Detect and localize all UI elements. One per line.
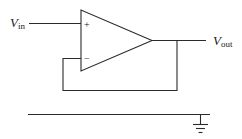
opamp-triangle bbox=[81, 10, 152, 71]
noninverting-sign: + bbox=[84, 19, 90, 30]
ground-icon bbox=[193, 115, 208, 133]
circuit-diagram: Vin + − Vout bbox=[0, 0, 242, 139]
vin-label: Vin bbox=[10, 15, 25, 31]
vout-label: Vout bbox=[213, 33, 233, 49]
feedback-wire bbox=[63, 41, 177, 91]
inverting-sign: − bbox=[84, 53, 90, 64]
